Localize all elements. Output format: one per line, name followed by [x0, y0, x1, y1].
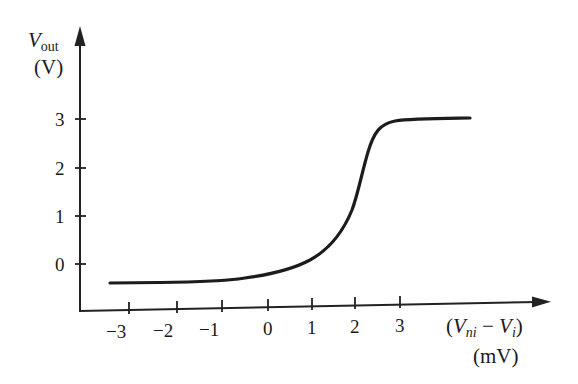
x-axis-unit: (mV) — [473, 346, 519, 367]
y-tick-label: 0 — [55, 255, 65, 274]
x-tick-label: 3 — [395, 316, 405, 335]
y-axis-var: V — [28, 28, 41, 52]
y-axis-label: Vout — [28, 30, 59, 54]
y-tick-label: 3 — [55, 110, 65, 129]
y-tick-label: 1 — [55, 207, 65, 226]
x-axis-label: (Vni − Vi) — [446, 316, 523, 340]
y-axis-arrow-icon — [75, 26, 86, 46]
x-tick-label: 2 — [350, 317, 360, 336]
transfer-curve — [110, 118, 470, 283]
x-axis-arrow-icon — [532, 297, 551, 308]
y-tick-label: 2 — [55, 159, 65, 178]
x-tick-label: 1 — [307, 318, 317, 337]
y-axis-var-sub: out — [41, 39, 59, 54]
y-axis-unit: (V) — [34, 57, 63, 78]
x-tick-label: 0 — [263, 319, 273, 338]
x-tick-label: −1 — [199, 320, 219, 339]
x-axis — [79, 302, 538, 311]
x-tick-label: −3 — [106, 322, 126, 341]
x-tick-label: −2 — [153, 321, 173, 340]
